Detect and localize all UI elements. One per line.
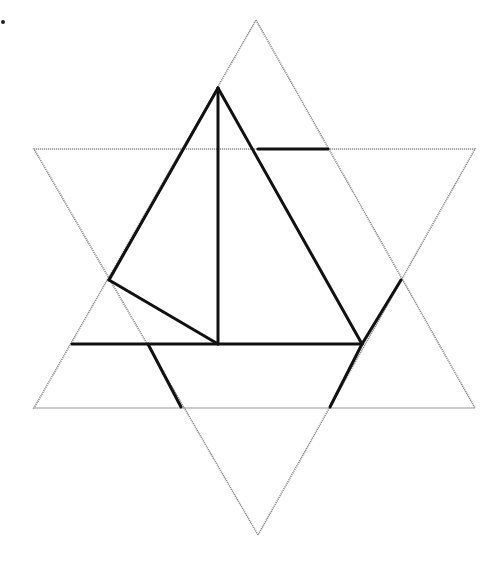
right-lower-edge <box>330 344 362 407</box>
left-inner-diagonal <box>109 280 218 344</box>
upward-triangle <box>34 20 475 408</box>
bold-dissection-lines <box>72 88 401 407</box>
corner-dot <box>1 20 5 24</box>
star-outline <box>34 20 475 535</box>
right-upper-edge <box>362 280 401 344</box>
left-lower-diagonal <box>148 344 181 407</box>
left-upper-edge <box>109 88 218 280</box>
hexagram-diagram <box>0 0 491 562</box>
right-long-diagonal <box>218 88 362 344</box>
downward-triangle <box>34 149 475 535</box>
